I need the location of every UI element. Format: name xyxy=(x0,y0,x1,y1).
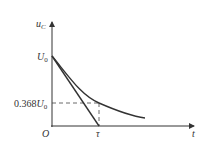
level-label: 0.368U0 xyxy=(14,98,48,111)
origin-label: O xyxy=(42,128,49,139)
x-axis-label: t xyxy=(192,128,195,139)
decay-curve xyxy=(52,56,145,118)
tau-label: τ xyxy=(96,128,100,139)
tangent-line xyxy=(52,56,99,126)
discharge-diagram: uC U0 0.368U0 O τ t xyxy=(0,0,207,151)
y-axis-label: uC xyxy=(36,18,46,31)
u0-label: U0 xyxy=(37,51,48,64)
